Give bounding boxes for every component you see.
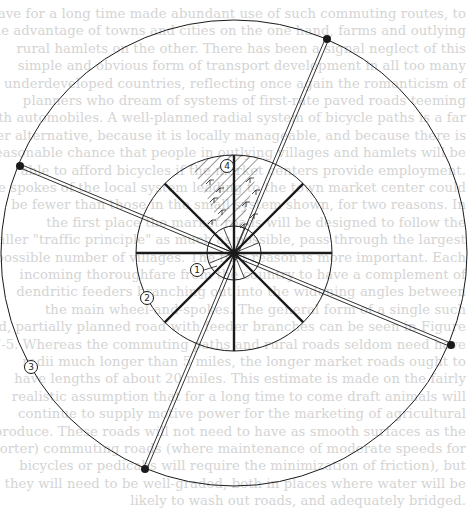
thick-spoke [234, 253, 303, 322]
zone-label-3: 3 [25, 361, 38, 374]
label-number: 1 [194, 265, 200, 275]
road-end-dot [447, 341, 455, 349]
label-number: 3 [28, 362, 34, 372]
zone-label-4: 4 [221, 160, 234, 173]
arrow-mark [252, 190, 260, 195]
center-hub [231, 250, 237, 256]
zone-labels: 1234 [25, 160, 234, 374]
road-end-dot [141, 465, 149, 473]
label-number: 2 [144, 293, 150, 303]
label-number: 4 [224, 161, 230, 171]
book-page: have for a long time made abundant use o… [0, 0, 468, 509]
road-end-dot [16, 162, 24, 170]
zone-label-2: 2 [141, 292, 154, 305]
radial-road-diagram: 1234 [0, 0, 468, 509]
road-end-dot [323, 35, 331, 43]
arrow-mark [208, 220, 216, 225]
